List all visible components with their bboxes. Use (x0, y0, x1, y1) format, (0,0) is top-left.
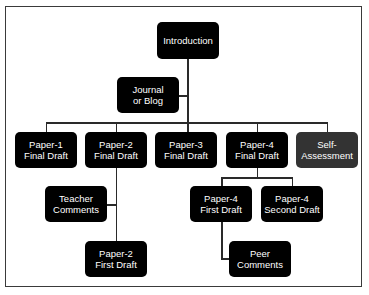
connector-peer-horizontal (221, 258, 229, 260)
connector-paper2 (116, 122, 118, 132)
node-teacher-comments: Teacher Comments (45, 186, 107, 222)
node-label: Paper-1 Final Draft (24, 139, 68, 162)
node-label: Journal or Blog (132, 84, 163, 107)
node-label: Teacher Comments (53, 193, 99, 216)
connector-teacher (107, 204, 116, 206)
connector-intro-trunk (187, 59, 189, 123)
node-label: Paper-3 Final Draft (164, 139, 208, 162)
connector-self (327, 122, 329, 132)
connector-paper4-first (221, 177, 223, 186)
node-paper3-final-draft: Paper-3 Final Draft (155, 132, 217, 168)
node-label: Self- Assessment (301, 139, 353, 162)
node-peer-comments: Peer Comments (229, 241, 291, 277)
node-label: Peer Comments (237, 248, 283, 271)
node-label: Paper-2 Final Draft (94, 139, 138, 162)
node-label: Paper-4 First Draft (200, 193, 242, 216)
connector-paper4-second (292, 177, 294, 186)
node-paper1-final-draft: Paper-1 Final Draft (15, 132, 77, 168)
node-label: Introduction (163, 35, 213, 47)
connector-paper1 (46, 122, 48, 132)
connector-paper3 (187, 122, 189, 132)
node-paper2-first-draft: Paper-2 First Draft (85, 241, 147, 277)
connector-journal (179, 95, 188, 97)
node-paper4-first-draft: Paper-4 First Draft (190, 186, 252, 222)
node-paper4-second-draft: Paper-4 Second Draft (261, 186, 323, 222)
connector-peer-vertical (221, 222, 223, 259)
connector-paper4-trunk (257, 168, 259, 177)
connector-paper4 (257, 122, 259, 132)
node-self-assessment: Self- Assessment (296, 132, 358, 168)
connector-paper4-bus (221, 177, 292, 179)
node-introduction: Introduction (157, 22, 219, 59)
node-journal-or-blog: Journal or Blog (117, 77, 179, 113)
node-paper4-final-draft: Paper-4 Final Draft (226, 132, 288, 168)
node-paper2-final-draft: Paper-2 Final Draft (85, 132, 147, 168)
node-label: Paper-4 Second Draft (264, 193, 319, 216)
node-label: Paper-2 First Draft (95, 248, 137, 271)
node-label: Paper-4 Final Draft (235, 139, 279, 162)
